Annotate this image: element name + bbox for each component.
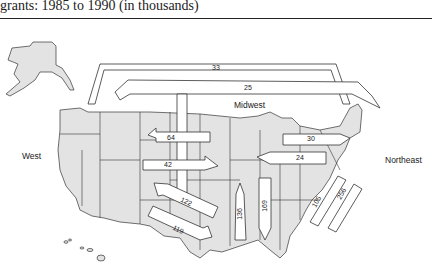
migration-map: West Midwest Northeast 33 25 64 42 30 24… — [0, 0, 434, 263]
hawaii-shape — [64, 239, 105, 261]
flow-arrow-24 — [257, 152, 326, 164]
flow-arrow-25-stem — [177, 94, 187, 200]
flow-value-25: 25 — [244, 84, 252, 91]
flow-value-24: 24 — [296, 154, 304, 161]
region-label-west: West — [22, 151, 42, 161]
region-label-midwest: Midwest — [234, 100, 266, 110]
flow-value-30: 30 — [307, 135, 315, 142]
flow-value-64: 64 — [167, 134, 175, 141]
flow-arrow-30 — [283, 134, 350, 145]
flow-value-169: 169 — [261, 200, 268, 212]
flow-value-136: 136 — [236, 208, 243, 220]
alaska-shape — [6, 42, 74, 96]
flow-value-42: 42 — [164, 161, 172, 168]
flow-value-33: 33 — [212, 64, 220, 71]
region-label-northeast: Northeast — [385, 155, 422, 165]
